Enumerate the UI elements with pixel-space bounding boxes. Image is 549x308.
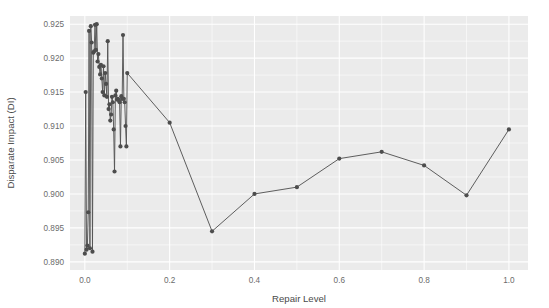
x-tick-label: 0.8 xyxy=(418,276,430,285)
y-tick-label: 0.925 xyxy=(44,20,65,29)
x-axis-title: Repair Level xyxy=(272,293,326,304)
x-tick-label: 0.2 xyxy=(164,276,176,285)
y-tick-label: 0.905 xyxy=(44,156,65,165)
data-point xyxy=(106,107,110,111)
data-point xyxy=(109,112,113,116)
y-axis-title: Disparate Impact (DI) xyxy=(5,97,16,188)
data-point xyxy=(380,150,384,154)
y-tick-label: 0.915 xyxy=(44,88,65,97)
data-point xyxy=(464,193,468,197)
data-point xyxy=(95,22,99,26)
data-point xyxy=(113,93,117,97)
data-point xyxy=(105,95,109,99)
data-point xyxy=(90,250,94,254)
x-tick-label: 0.0 xyxy=(79,276,91,285)
data-point xyxy=(86,210,90,214)
data-point xyxy=(87,29,91,33)
data-point xyxy=(96,52,100,56)
data-point xyxy=(252,192,256,196)
data-point xyxy=(103,71,107,75)
data-point xyxy=(112,127,116,131)
data-point xyxy=(118,100,122,104)
data-point xyxy=(112,169,116,173)
x-tick-label: 1.0 xyxy=(503,276,515,285)
data-point xyxy=(114,89,118,93)
y-tick-label: 0.900 xyxy=(44,190,65,199)
data-point xyxy=(125,71,129,75)
data-point xyxy=(83,252,87,256)
data-point xyxy=(94,48,98,52)
data-point xyxy=(124,144,128,148)
data-point xyxy=(111,100,115,104)
y-tick-label: 0.895 xyxy=(44,224,65,233)
data-point xyxy=(101,64,105,68)
data-point xyxy=(507,127,511,131)
data-point xyxy=(89,24,93,28)
data-point xyxy=(337,157,341,161)
data-point xyxy=(104,82,108,86)
x-tick-label: 0.4 xyxy=(249,276,261,285)
data-point xyxy=(95,59,99,63)
disparate-impact-line-chart: 0.8900.8950.9000.9050.9100.9150.9200.925… xyxy=(0,0,549,308)
y-tick-label: 0.920 xyxy=(44,54,65,63)
data-point xyxy=(210,229,214,233)
data-point xyxy=(88,246,92,250)
data-point xyxy=(108,118,112,122)
y-tick-label: 0.910 xyxy=(44,122,65,131)
data-point xyxy=(100,76,104,80)
data-point xyxy=(118,144,122,148)
y-tick-label: 0.890 xyxy=(44,258,65,267)
data-point xyxy=(295,185,299,189)
chart-figure: 0.8900.8950.9000.9050.9100.9150.9200.925… xyxy=(0,0,549,308)
data-point xyxy=(106,39,110,43)
data-point xyxy=(90,40,94,44)
data-point xyxy=(168,121,172,125)
data-point xyxy=(123,124,127,128)
data-point xyxy=(123,100,127,104)
data-point xyxy=(98,72,102,76)
data-point xyxy=(422,163,426,167)
x-tick-label: 0.6 xyxy=(334,276,346,285)
data-point xyxy=(84,90,88,94)
data-point xyxy=(121,33,125,37)
